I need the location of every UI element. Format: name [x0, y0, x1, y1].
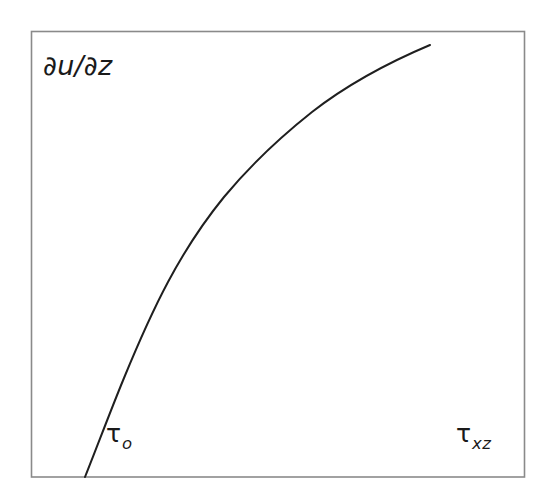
y-axis-label: ∂u/∂z: [43, 52, 112, 79]
shear-stress-tau-glyph: τ: [456, 419, 471, 448]
yield-stress-tau-glyph: τ: [106, 419, 121, 448]
shear-stress-label: τxz: [456, 421, 491, 452]
yield-stress-label: τo: [106, 421, 133, 452]
yield-stress-subscript: o: [121, 434, 133, 453]
figure-root: ∂u/∂z τo τxz: [0, 0, 553, 503]
shear-stress-subscript: xz: [471, 434, 491, 453]
